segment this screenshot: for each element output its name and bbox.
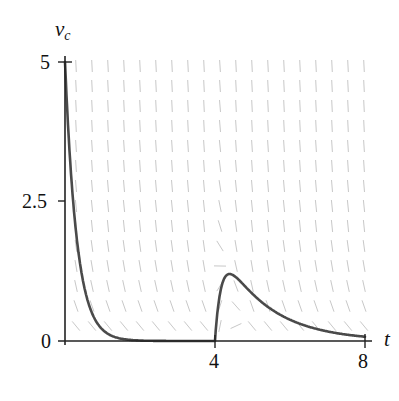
slope-segment <box>316 100 317 112</box>
slope-segment <box>91 220 92 232</box>
slope-segment <box>235 220 237 232</box>
slope-segment <box>88 321 96 330</box>
slope-segment <box>204 180 205 192</box>
slope-segment <box>104 321 112 330</box>
slope-segment <box>139 260 141 272</box>
slope-segment <box>156 60 157 72</box>
slope-segment <box>347 280 350 292</box>
slope-segment <box>364 160 365 172</box>
slope-segment <box>364 60 365 72</box>
voltage-curve <box>65 62 365 341</box>
slope-segment <box>91 200 92 212</box>
slope-segment <box>156 180 157 192</box>
slope-segment <box>188 180 189 192</box>
y-tick-label-2-5: 2.5 <box>22 190 47 212</box>
slope-segment <box>220 100 221 112</box>
slope-segment <box>188 160 189 172</box>
slope-segment <box>283 240 285 252</box>
slope-segment <box>267 220 268 232</box>
x-tick-label-4: 4 <box>209 350 219 372</box>
slope-segment <box>156 120 157 132</box>
slope-segment <box>364 120 365 132</box>
slope-segment <box>171 240 173 252</box>
slope-segment <box>248 321 256 330</box>
slope-segment <box>217 241 223 251</box>
slope-segment <box>139 280 142 292</box>
slope-segment <box>184 321 192 330</box>
slope-segment <box>107 200 108 212</box>
slope-segment <box>120 321 128 330</box>
slope-segment <box>76 120 77 132</box>
slope-segment <box>156 80 157 92</box>
slope-segment <box>155 240 157 252</box>
x-tick-label-8: 8 <box>358 350 368 372</box>
slope-segment <box>123 260 125 272</box>
slope-segment <box>219 160 220 172</box>
slope-segment <box>204 140 205 152</box>
slope-segment <box>171 220 172 232</box>
slope-segment <box>204 80 205 92</box>
slope-segment <box>300 120 301 132</box>
slope-segment <box>282 300 286 311</box>
slope-segment <box>316 80 317 92</box>
slope-segment <box>108 100 109 112</box>
slope-segment <box>219 180 221 192</box>
slope-segment <box>123 220 124 232</box>
slope-segment <box>76 80 77 92</box>
slope-segment <box>156 100 157 112</box>
slope-segment <box>235 240 237 252</box>
slope-segment <box>140 120 141 132</box>
slope-segment <box>152 321 160 330</box>
slope-segment <box>251 220 252 232</box>
slope-segment <box>364 80 365 92</box>
slope-segment <box>204 100 205 112</box>
slope-segment <box>331 280 334 292</box>
slope-segment <box>172 60 173 72</box>
slope-segment <box>332 120 333 132</box>
slope-segment <box>315 220 316 232</box>
slope-segment <box>348 60 349 72</box>
slope-segment <box>347 220 348 232</box>
slope-segment <box>220 60 221 72</box>
slope-segment <box>72 321 80 330</box>
slope-segment <box>186 300 190 311</box>
slope-segment <box>168 321 176 330</box>
slope-segment <box>268 80 269 92</box>
slope-segment <box>236 120 237 132</box>
slope-segment <box>204 120 205 132</box>
slope-segment <box>299 280 302 292</box>
slope-segment <box>284 120 285 132</box>
slope-segment <box>92 80 93 92</box>
slope-segment <box>283 260 285 272</box>
slope-segment <box>268 100 269 112</box>
slope-segment <box>299 240 301 252</box>
slope-segment <box>332 60 333 72</box>
slope-segment <box>347 240 349 252</box>
slope-segment <box>316 120 317 132</box>
slope-segment <box>140 60 141 72</box>
slope-segment <box>155 200 156 212</box>
slope-segment <box>92 160 93 172</box>
y-axis-label-sub: c <box>64 28 71 43</box>
slope-segment <box>75 280 78 292</box>
x-axis-label: t <box>384 327 391 351</box>
slope-segment <box>316 160 317 172</box>
slope-segment <box>252 100 253 112</box>
slope-segment <box>315 260 317 272</box>
slope-segment <box>218 220 222 231</box>
slope-segment <box>108 180 109 192</box>
slope-segment <box>220 80 221 92</box>
slope-segment <box>188 100 189 112</box>
slope-segment <box>203 260 205 272</box>
slope-segment <box>315 200 316 212</box>
slope-segment <box>300 140 301 152</box>
slope-segment <box>187 260 189 272</box>
slope-segment <box>123 200 124 212</box>
slope-segment <box>140 160 141 172</box>
slope-segment <box>139 240 141 252</box>
slope-segment <box>299 260 301 272</box>
slope-segment <box>264 321 272 330</box>
slope-segment <box>363 200 364 212</box>
slope-segment <box>156 160 157 172</box>
slope-segment <box>140 140 141 152</box>
